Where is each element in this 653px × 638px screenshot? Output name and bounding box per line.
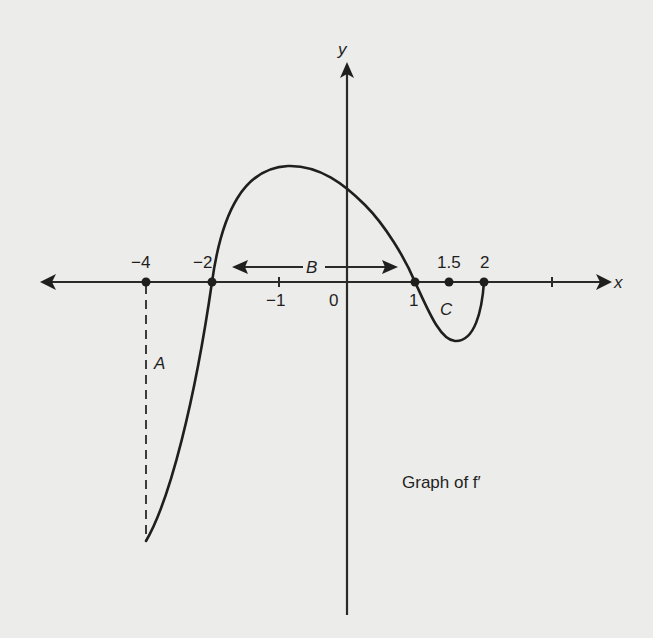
y-axis bbox=[340, 62, 354, 615]
point-neg4 bbox=[142, 278, 151, 287]
point-1 bbox=[411, 278, 420, 287]
label-neg4: −4 bbox=[131, 253, 150, 272]
label-1: 1 bbox=[409, 291, 418, 310]
y-axis-label: y bbox=[337, 40, 348, 59]
graph-canvas: y x −4 −2 1.5 2 −1 0 1 B A C Graph of f′ bbox=[0, 0, 653, 638]
label-neg1: −1 bbox=[266, 291, 285, 310]
figure: y x −4 −2 1.5 2 −1 0 1 B A C Graph of f′ bbox=[0, 0, 653, 638]
label-1-5: 1.5 bbox=[437, 253, 461, 272]
point-1-5 bbox=[445, 278, 454, 287]
region-label-b: B bbox=[306, 258, 317, 277]
region-label-a: A bbox=[153, 354, 165, 373]
x-axis bbox=[40, 274, 612, 290]
region-label-c: C bbox=[440, 300, 453, 319]
label-2: 2 bbox=[480, 253, 489, 272]
x-axis-label: x bbox=[613, 273, 623, 292]
label-neg2: −2 bbox=[193, 253, 212, 272]
graph-caption: Graph of f′ bbox=[402, 473, 481, 492]
label-0: 0 bbox=[329, 291, 338, 310]
point-neg2 bbox=[208, 278, 217, 287]
point-2 bbox=[480, 278, 489, 287]
